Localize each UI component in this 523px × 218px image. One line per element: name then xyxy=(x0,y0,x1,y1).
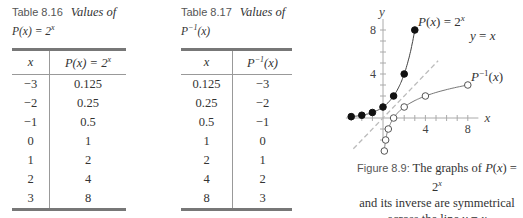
y-tick-label: 8 xyxy=(370,23,376,37)
point-p-of-x xyxy=(359,112,366,119)
figure-8-9-caption: Figure 8.9: The graphs of P(x) = 2x and … xyxy=(352,160,522,218)
label-p-inverse: P−1(x) xyxy=(470,68,503,84)
x-tick-label: 8 xyxy=(465,122,471,136)
point-p-of-x xyxy=(348,113,355,120)
point-p-of-x xyxy=(369,109,376,116)
label-p-of-x: P(x) = 2x xyxy=(417,13,465,29)
x-axis-label: x xyxy=(483,110,490,125)
x-tick-label: 4 xyxy=(422,122,428,136)
y-axis-label: y xyxy=(377,4,385,19)
point-p-inverse xyxy=(381,148,388,155)
point-p-of-x xyxy=(390,93,397,100)
point-p-inverse xyxy=(390,115,397,122)
point-p-of-x xyxy=(401,71,408,78)
point-p-inverse xyxy=(422,93,429,100)
point-p-inverse xyxy=(382,137,389,144)
point-p-of-x xyxy=(380,104,387,111)
point-p-inverse xyxy=(385,126,392,133)
point-p-inverse xyxy=(401,104,408,111)
figure-label: Figure 8.9: xyxy=(357,162,410,174)
label-y-equals-x: y = x xyxy=(468,28,496,43)
y-tick-label: 4 xyxy=(370,67,376,81)
